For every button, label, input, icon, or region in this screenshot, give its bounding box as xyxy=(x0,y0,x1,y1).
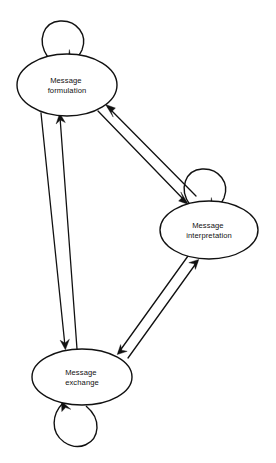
diagram-canvas: Message formulation Message interpretati… xyxy=(0,0,276,463)
arrowhead-into-interpretation-from-formulation xyxy=(179,192,189,205)
node-label-line1-exchange: Message xyxy=(65,368,97,377)
node-label-line2-exchange: exchange xyxy=(65,378,99,387)
self-loop-path-exchange xyxy=(54,403,97,446)
node-label-message-formulation: Message formulation xyxy=(48,76,87,95)
edge-line-interpretation-exchange xyxy=(119,256,188,352)
state-diagram: Message formulation Message interpretati… xyxy=(0,0,276,463)
node-message-exchange[interactable]: Message exchange xyxy=(32,349,132,405)
self-loop-message-exchange xyxy=(54,402,97,447)
edge-line-exchange-formulation xyxy=(60,117,77,349)
edge-line-formulation-interpretation xyxy=(98,111,186,202)
node-label-line1-interpretation: Message xyxy=(192,221,224,230)
edge-line-exchange-interpretation xyxy=(128,262,197,358)
arrowhead-into-exchange-from-interpretation xyxy=(117,345,127,355)
edge-line-interpretation-formulation xyxy=(108,107,196,196)
edge-line-formulation-exchange xyxy=(41,113,65,346)
node-message-interpretation[interactable]: Message interpretation xyxy=(160,201,258,259)
node-label-message-interpretation: Message interpretation xyxy=(186,221,232,240)
node-label-line1-formulation: Message xyxy=(50,76,82,85)
edge-exchange-to-interpretation xyxy=(128,259,199,358)
node-label-line2-interpretation: interpretation xyxy=(186,231,232,240)
edge-formulation-to-exchange xyxy=(41,113,69,350)
edge-formulation-to-interpretation xyxy=(98,111,189,205)
node-message-formulation[interactable]: Message formulation xyxy=(17,54,117,116)
edge-interpretation-to-exchange xyxy=(117,256,188,355)
arrowhead-into-interpretation-from-exchange xyxy=(189,259,199,269)
node-label-message-exchange: Message exchange xyxy=(65,368,99,387)
arrowhead-into-formulation-from-interpretation xyxy=(106,104,116,117)
node-label-line2-formulation: formulation xyxy=(48,86,87,95)
edge-exchange-to-formulation xyxy=(56,113,77,349)
edge-interpretation-to-formulation xyxy=(106,104,197,196)
